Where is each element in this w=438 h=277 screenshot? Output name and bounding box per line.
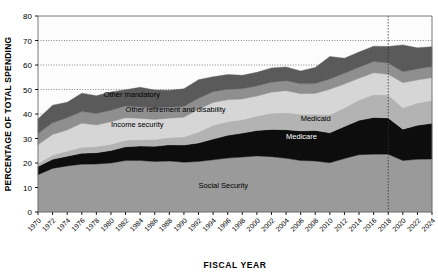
stacked-area-chart: 01020304050607080 1970197219741976197819…: [0, 0, 438, 277]
x-tick-label: 2006: [289, 217, 305, 233]
x-tick-label: 1986: [143, 217, 159, 233]
band-label-other-retirement-and-disability: Other retirement and disability: [126, 105, 226, 114]
x-tick-label: 2002: [260, 217, 276, 233]
y-tick-label: 30: [23, 135, 32, 144]
y-tick-label: 0: [28, 208, 33, 217]
x-tick-label: 2016: [362, 217, 378, 233]
x-tick-label: 2018: [376, 217, 392, 233]
x-tick-label: 1994: [201, 217, 217, 233]
x-axis-title: FISCAL YEAR: [204, 260, 267, 270]
band-label-other-mandatory: Other mandatory: [104, 90, 161, 99]
y-tick-label: 70: [23, 37, 32, 46]
y-tick-label: 10: [23, 184, 32, 193]
x-tick-label: 2010: [318, 217, 334, 233]
x-tick-label: 2024: [420, 217, 436, 233]
y-tick-label: 20: [23, 159, 32, 168]
band-label-social-security: Social Security: [199, 181, 249, 190]
y-axis-ticks: 01020304050607080: [23, 12, 38, 217]
x-tick-label: 2004: [274, 217, 290, 233]
x-tick-label: 1992: [187, 217, 203, 233]
y-tick-label: 50: [23, 86, 32, 95]
y-tick-label: 40: [23, 110, 32, 119]
x-tick-label: 1974: [55, 217, 71, 233]
y-axis-title: PERCENTAGE OF TOTAL SPENDING: [3, 36, 13, 191]
x-tick-label: 2012: [333, 217, 349, 233]
x-tick-label: 1982: [114, 217, 130, 233]
x-tick-label: 1984: [128, 217, 144, 233]
x-tick-label: 2014: [347, 217, 363, 233]
x-tick-label: 2020: [391, 217, 407, 233]
x-tick-label: 1980: [99, 217, 115, 233]
y-tick-label: 80: [23, 12, 32, 21]
band-label-income-security: Income security: [111, 120, 164, 129]
x-tick-label: 1976: [70, 217, 86, 233]
x-tick-label: 2008: [304, 217, 320, 233]
x-tick-label: 1978: [85, 217, 101, 233]
x-tick-label: 1990: [172, 217, 188, 233]
x-tick-label: 1996: [216, 217, 232, 233]
chart-figure: 01020304050607080 1970197219741976197819…: [0, 0, 438, 277]
x-tick-label: 1972: [41, 217, 57, 233]
band-label-medicaid: Medicaid: [301, 114, 331, 123]
y-tick-label: 60: [23, 61, 32, 70]
x-tick-label: 1988: [158, 217, 174, 233]
band-label-medicare: Medicare: [286, 132, 317, 141]
x-tick-label: 1998: [231, 217, 247, 233]
x-tick-label: 2000: [245, 217, 261, 233]
x-tick-label: 1970: [26, 217, 42, 233]
x-axis-ticks: 1970197219741976197819801982198419861988…: [26, 212, 436, 233]
x-tick-label: 2022: [406, 217, 422, 233]
